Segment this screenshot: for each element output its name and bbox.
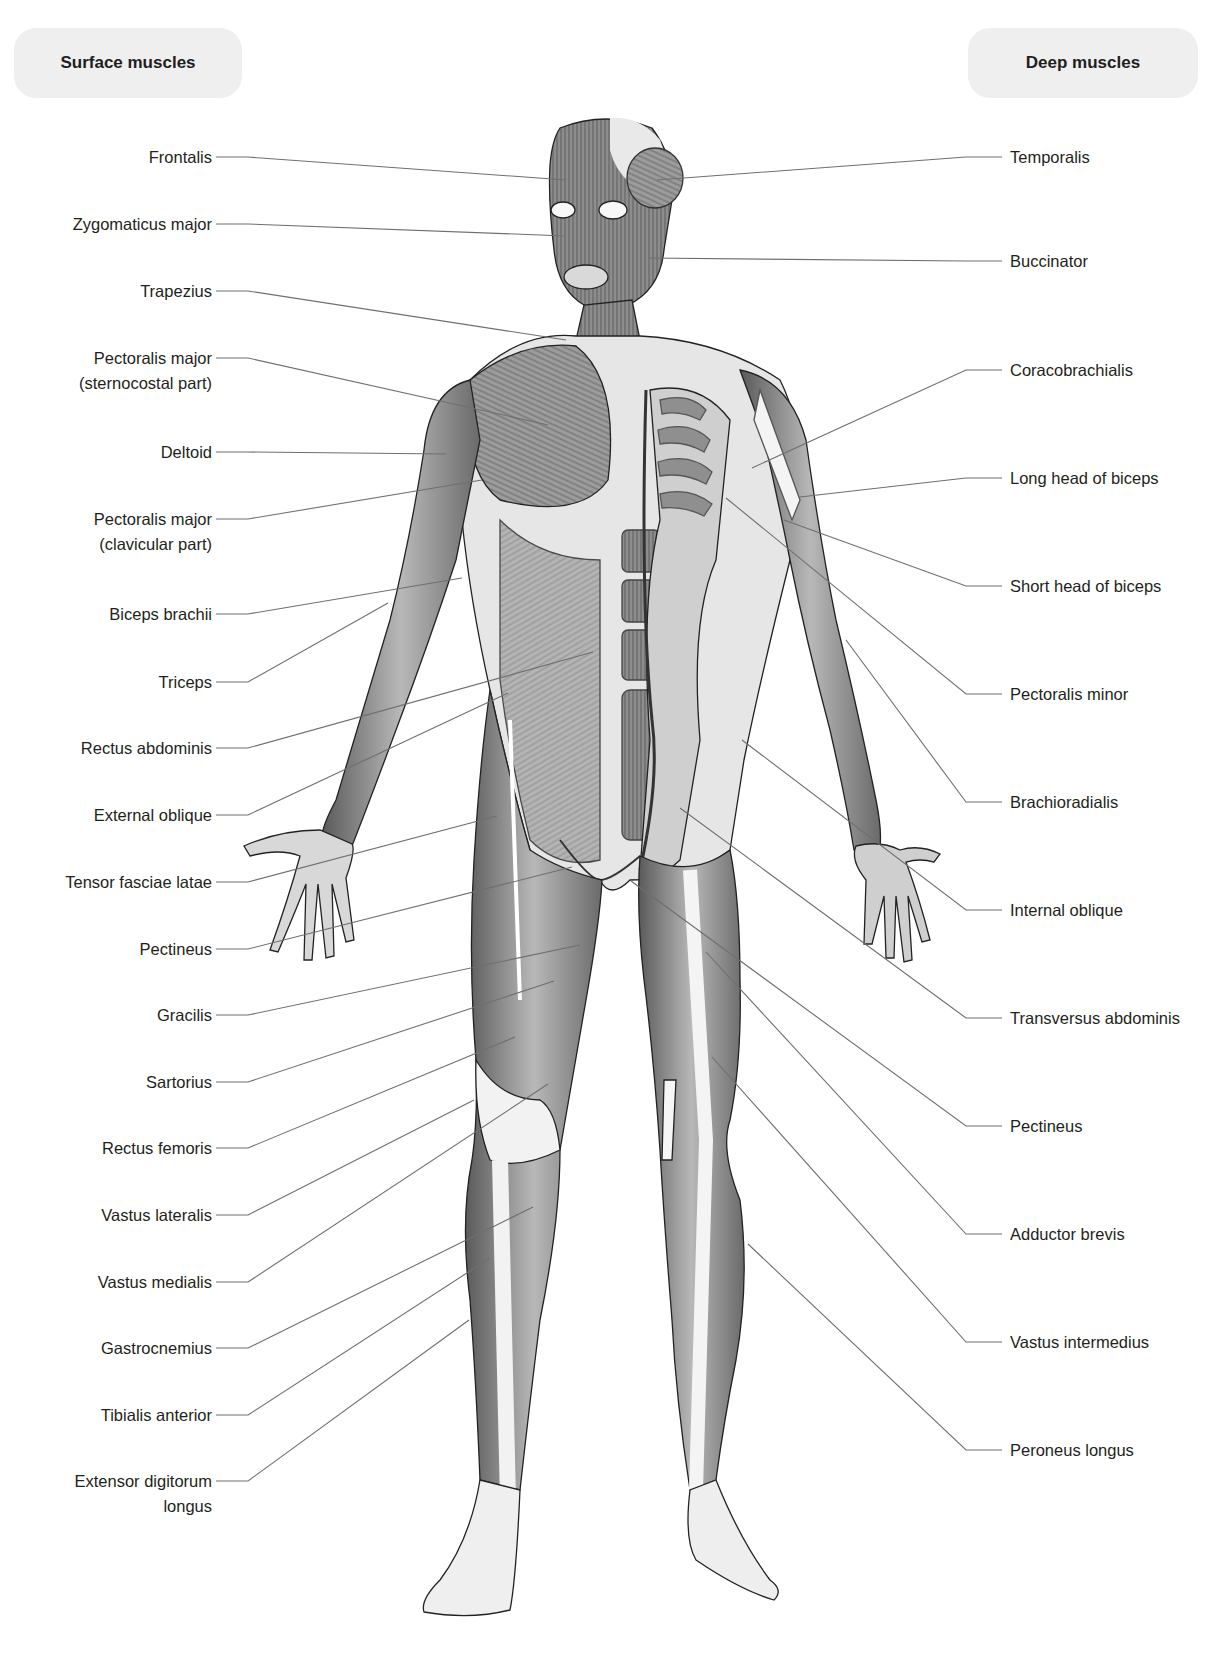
label-text: Peroneus longus xyxy=(1010,1438,1134,1463)
label-long-head-of-biceps: Long head of biceps xyxy=(1010,466,1159,491)
label-trapezius: Trapezius xyxy=(140,279,212,304)
label-text: Gracilis xyxy=(157,1003,212,1028)
label-text: Brachioradialis xyxy=(1010,790,1118,815)
right-foot xyxy=(688,1480,778,1600)
label-text: Gastrocnemius xyxy=(101,1336,212,1361)
label-peroneus-longus: Peroneus longus xyxy=(1010,1438,1134,1463)
label-text-line2: (sternocostal part) xyxy=(79,371,212,396)
label-text: Rectus femoris xyxy=(102,1136,212,1161)
leader-line-temporalis xyxy=(657,157,1002,180)
label-text: Pectoralis minor xyxy=(1010,682,1128,707)
label-text: Tensor fasciae latae xyxy=(65,870,212,895)
label-text: Vastus medialis xyxy=(98,1270,212,1295)
label-vastus-lateralis: Vastus lateralis xyxy=(101,1203,212,1228)
label-rectus-abdominis: Rectus abdominis xyxy=(81,736,212,761)
label-temporalis: Temporalis xyxy=(1010,145,1090,170)
label-short-head-of-biceps: Short head of biceps xyxy=(1010,574,1161,599)
label-text: Tibialis anterior xyxy=(101,1403,212,1428)
label-text: External oblique xyxy=(94,803,212,828)
label-text: Deltoid xyxy=(161,440,212,465)
label-buccinator: Buccinator xyxy=(1010,249,1088,274)
label-internal-oblique: Internal oblique xyxy=(1010,898,1123,923)
label-text-line2: longus xyxy=(74,1494,212,1519)
label-pectoralis-minor: Pectoralis minor xyxy=(1010,682,1128,707)
left-hand xyxy=(244,830,354,960)
label-vastus-intermedius: Vastus intermedius xyxy=(1010,1330,1149,1355)
label-text: Pectoralis major xyxy=(94,507,212,532)
label-brachioradialis: Brachioradialis xyxy=(1010,790,1118,815)
label-pectoralis-major-sternocostal-part: Pectoralis major(sternocostal part) xyxy=(79,346,212,396)
label-text: Internal oblique xyxy=(1010,898,1123,923)
label-text: Long head of biceps xyxy=(1010,466,1159,491)
label-sartorius: Sartorius xyxy=(146,1070,212,1095)
leader-line-buccinator xyxy=(648,258,1002,261)
label-text: Zygomaticus major xyxy=(73,212,212,237)
label-tensor-fasciae-latae: Tensor fasciae latae xyxy=(65,870,212,895)
label-text: Temporalis xyxy=(1010,145,1090,170)
label-text: Pectineus xyxy=(1010,1114,1082,1139)
label-pectineus: Pectineus xyxy=(1010,1114,1082,1139)
label-external-oblique: External oblique xyxy=(94,803,212,828)
label-adductor-brevis: Adductor brevis xyxy=(1010,1222,1125,1247)
left-foot xyxy=(423,1480,520,1616)
label-text: Vastus lateralis xyxy=(101,1203,212,1228)
leader-line-rectus-femoris xyxy=(216,1037,515,1148)
label-text: Adductor brevis xyxy=(1010,1222,1125,1247)
leader-line-deltoid xyxy=(216,452,446,454)
left-arm xyxy=(322,380,480,846)
label-pectineus: Pectineus xyxy=(140,937,212,962)
leader-line-zygomaticus-major xyxy=(216,224,566,236)
label-text: Short head of biceps xyxy=(1010,574,1161,599)
leader-line-peroneus-longus xyxy=(748,1244,1002,1450)
label-transversus-abdominis: Transversus abdominis xyxy=(1010,1006,1180,1031)
label-text: Pectoralis major xyxy=(79,346,212,371)
label-biceps-brachii: Biceps brachii xyxy=(109,602,212,627)
leader-line-frontalis xyxy=(216,157,566,180)
neck xyxy=(576,300,640,340)
leader-line-vastus-intermedius xyxy=(712,1057,1002,1342)
label-pectoralis-major-clavicular-part: Pectoralis major(clavicular part) xyxy=(94,507,212,557)
right-hand xyxy=(854,844,940,962)
label-gastrocnemius: Gastrocnemius xyxy=(101,1336,212,1361)
label-frontalis: Frontalis xyxy=(149,145,212,170)
label-extensor-digitorum-longus: Extensor digitorumlongus xyxy=(74,1469,212,1519)
label-deltoid: Deltoid xyxy=(161,440,212,465)
label-text: Buccinator xyxy=(1010,249,1088,274)
label-text: Coracobrachialis xyxy=(1010,358,1133,383)
label-gracilis: Gracilis xyxy=(157,1003,212,1028)
label-text: Transversus abdominis xyxy=(1010,1006,1180,1031)
leader-line-triceps xyxy=(216,603,388,682)
label-triceps: Triceps xyxy=(159,670,212,695)
leader-line-long-head-of-biceps xyxy=(800,478,1002,497)
label-zygomaticus-major: Zygomaticus major xyxy=(73,212,212,237)
label-coracobrachialis: Coracobrachialis xyxy=(1010,358,1133,383)
label-text: Pectineus xyxy=(140,937,212,962)
label-text-line2: (clavicular part) xyxy=(94,532,212,557)
leader-line-extensor-digitorum xyxy=(216,1320,469,1481)
leader-line-adductor-brevis xyxy=(706,952,1002,1234)
label-text: Vastus intermedius xyxy=(1010,1330,1149,1355)
label-text: Trapezius xyxy=(140,279,212,304)
label-text: Sartorius xyxy=(146,1070,212,1095)
label-vastus-medialis: Vastus medialis xyxy=(98,1270,212,1295)
label-text: Triceps xyxy=(159,670,212,695)
label-tibialis-anterior: Tibialis anterior xyxy=(101,1403,212,1428)
label-text: Biceps brachii xyxy=(109,602,212,627)
label-text: Frontalis xyxy=(149,145,212,170)
label-text: Rectus abdominis xyxy=(81,736,212,761)
leader-line-trapezius xyxy=(216,291,566,340)
leader-line-tibialis-anterior xyxy=(216,1258,490,1415)
leader-line-vastus-lateralis xyxy=(216,1100,474,1215)
body-figure xyxy=(244,118,940,1616)
label-rectus-femoris: Rectus femoris xyxy=(102,1136,212,1161)
label-text: Extensor digitorum xyxy=(74,1469,212,1494)
